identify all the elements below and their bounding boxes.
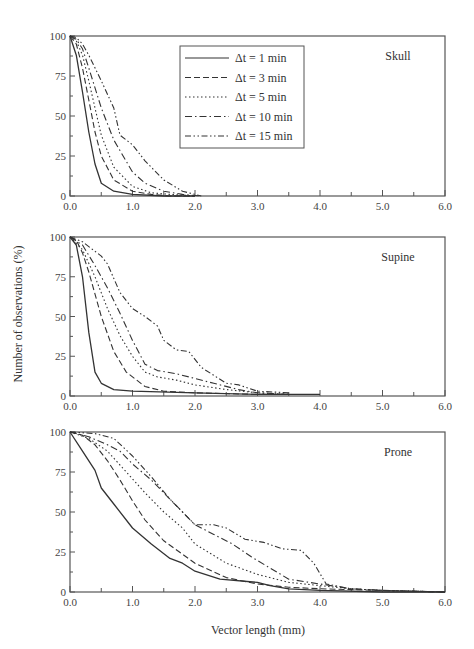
- series-line: [70, 36, 195, 196]
- x-tick-label: 3.0: [251, 596, 265, 608]
- y-tick-label: 0: [61, 390, 67, 402]
- x-tick-label: 6.0: [438, 200, 452, 212]
- y-tick-label: 50: [55, 506, 67, 518]
- series-line: [70, 36, 195, 196]
- y-tick-label: 100: [50, 231, 67, 243]
- x-tick-label: 1.0: [126, 400, 140, 412]
- x-tick-label: 4.0: [313, 200, 327, 212]
- x-tick-label: 1.0: [126, 596, 140, 608]
- x-tick-label: 2.0: [188, 400, 202, 412]
- y-tick-label: 75: [55, 271, 67, 283]
- y-axis-title: Number of observations (%): [11, 246, 25, 383]
- x-tick-label: 4.0: [313, 400, 327, 412]
- chart-figure: 0.01.02.03.04.05.06.00255075100Skull0.01…: [0, 0, 474, 649]
- legend-entry: Δt = 5 min: [235, 90, 287, 104]
- panel-prone: 0.01.02.03.04.05.06.00255075100Prone: [50, 426, 453, 608]
- legend-entry: Δt = 3 min: [235, 71, 287, 85]
- series-line: [70, 237, 289, 394]
- x-tick-label: 5.0: [376, 400, 390, 412]
- x-tick-label: 5.0: [376, 200, 390, 212]
- x-tick-label: 2.0: [188, 200, 202, 212]
- panel-label: Prone: [384, 445, 412, 459]
- series-line: [70, 36, 195, 196]
- legend-entry: Δt = 10 min: [235, 110, 293, 124]
- x-tick-label: 6.0: [438, 400, 452, 412]
- y-tick-label: 100: [50, 30, 67, 42]
- legend-entry: Δt = 1 min: [235, 51, 287, 65]
- series-line: [70, 237, 289, 394]
- x-tick-label: 3.0: [251, 400, 265, 412]
- y-tick-label: 25: [55, 546, 67, 558]
- x-axis-title: Vector length (mm): [211, 623, 305, 637]
- legend: Δt = 1 minΔt = 3 minΔt = 5 minΔt = 10 mi…: [180, 46, 304, 148]
- legend-entry: Δt = 15 min: [235, 129, 293, 143]
- y-tick-label: 0: [61, 586, 67, 598]
- series-line: [70, 237, 289, 393]
- y-tick-label: 0: [61, 190, 67, 202]
- x-tick-label: 6.0: [438, 596, 452, 608]
- panel-label: Skull: [385, 49, 411, 63]
- series-line: [70, 237, 289, 394]
- x-tick-label: 3.0: [251, 200, 265, 212]
- y-tick-label: 25: [55, 350, 67, 362]
- x-tick-label: 2.0: [188, 596, 202, 608]
- y-tick-label: 75: [55, 466, 67, 478]
- series-line: [70, 237, 320, 394]
- y-tick-label: 25: [55, 150, 67, 162]
- x-tick-label: 5.0: [376, 596, 390, 608]
- x-tick-label: 1.0: [126, 200, 140, 212]
- y-tick-label: 75: [55, 70, 67, 82]
- y-tick-label: 100: [50, 426, 67, 438]
- y-tick-label: 50: [55, 110, 67, 122]
- x-tick-label: 4.0: [313, 596, 327, 608]
- y-tick-label: 50: [55, 311, 67, 323]
- panel-label: Supine: [381, 250, 414, 264]
- panel-supine: 0.01.02.03.04.05.06.00255075100Supine: [50, 231, 453, 412]
